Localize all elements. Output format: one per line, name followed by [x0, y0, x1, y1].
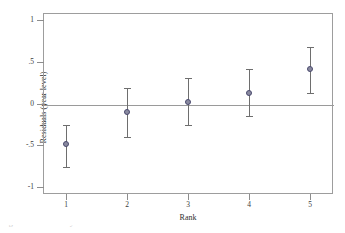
y-axis-tick-label: 1	[0, 16, 34, 24]
y-axis-tick-label: .5	[0, 58, 34, 66]
clipped-caption: Figure 3. Residuals by rank	[2, 225, 202, 233]
y-axis-tick	[37, 187, 44, 188]
x-axis-tick-label: 2	[117, 201, 137, 209]
x-axis-tick-label: 3	[178, 201, 198, 209]
error-bar-cap	[124, 88, 131, 89]
data-point-marker	[63, 141, 69, 147]
error-bar-cap	[246, 116, 253, 117]
chart-figure: Residuals (year level) 1.50-.5-112345 Ra…	[0, 0, 345, 233]
error-bar-cap	[63, 125, 70, 126]
y-axis-tick-label: -.5	[0, 141, 34, 149]
y-axis-tick	[37, 145, 44, 146]
error-bar-cap	[185, 78, 192, 79]
error-bar-cap	[185, 125, 192, 126]
error-bar-cap	[124, 137, 131, 138]
x-axis-tick-label: 5	[300, 201, 320, 209]
clipped-caption-text: Figure 3. Residuals by rank	[2, 225, 90, 227]
x-axis-tick-label: 1	[56, 201, 76, 209]
data-point-marker	[185, 99, 191, 105]
x-axis-title: Rank	[43, 213, 333, 222]
x-axis-tick-label: 4	[239, 201, 259, 209]
y-axis-tick	[37, 20, 44, 21]
y-axis-tick	[37, 104, 44, 105]
y-axis-tick-label: -1	[0, 183, 34, 191]
y-axis-tick-label: 0	[0, 100, 34, 108]
error-bar-cap	[307, 47, 314, 48]
error-bar-cap	[63, 167, 70, 168]
data-point-marker	[124, 109, 130, 115]
y-axis-tick	[37, 62, 44, 63]
error-bar-cap	[246, 69, 253, 70]
error-bar-cap	[307, 93, 314, 94]
